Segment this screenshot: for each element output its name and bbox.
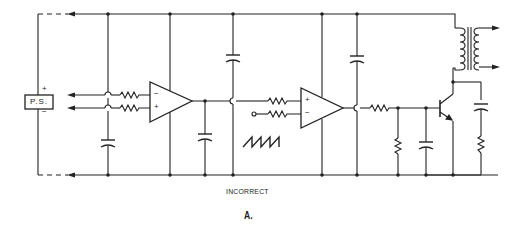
figure-label: A. xyxy=(244,210,253,221)
opamp-1-inverting-symbol: − xyxy=(154,89,159,98)
transformer xyxy=(453,27,495,70)
sawtooth-waveform xyxy=(243,137,279,147)
input-arrowheads xyxy=(67,93,75,111)
capacitor-top xyxy=(226,14,268,175)
capacitor-output-1 xyxy=(198,101,212,175)
capacitor-base xyxy=(419,108,433,175)
ps-negative-symbol: − xyxy=(42,107,47,116)
capacitor-top-2 xyxy=(350,14,370,175)
resistor-in-1 xyxy=(120,92,150,98)
transformer-output-arrows xyxy=(492,26,500,70)
diagram-caption: INCORRECT xyxy=(226,187,269,196)
opamp-2-noninverting-symbol: + xyxy=(305,95,310,104)
input-terminal xyxy=(252,112,268,116)
opamp-1-noninverting-symbol: + xyxy=(154,102,159,111)
resistor-in-2 xyxy=(120,105,150,111)
resistor-snubber xyxy=(426,136,484,175)
resistor-in-3 xyxy=(268,98,301,104)
collector-node xyxy=(453,68,481,100)
resistor-in-4 xyxy=(268,111,301,117)
power-supply-label: P.S. xyxy=(30,97,48,106)
opamp-2-inverting-symbol: − xyxy=(305,108,310,117)
ps-positive-symbol: + xyxy=(42,84,47,93)
top-rail xyxy=(72,14,455,28)
capacitor-snubber xyxy=(474,104,488,136)
input-lines xyxy=(72,92,120,108)
resistor-base xyxy=(370,105,440,111)
resistor-pulldown xyxy=(395,108,401,175)
npn-transistor xyxy=(440,82,453,175)
